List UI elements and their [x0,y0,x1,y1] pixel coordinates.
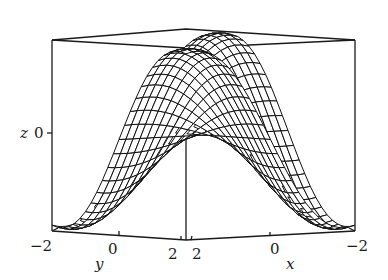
surface-mesh [52,33,355,229]
y-tick-mark-neg2 [52,228,58,231]
x-tick-label-2: 2 [192,245,202,263]
z-tick-label-0: 0 [34,124,44,142]
surface-plot: z 0 −2 0 2 y 2 0 −2 x [0,0,388,280]
y-axis-label: y [94,255,104,273]
y-tick-label-neg2: −2 [30,237,52,255]
x-tick-label-neg2: −2 [346,237,368,255]
y-tick-label-2: 2 [168,245,178,263]
z-axis-label: z [19,124,28,142]
y-tick-label-0: 0 [108,240,118,258]
x-tick-label-0: 0 [270,240,280,258]
x-axis-label: x [286,255,295,273]
